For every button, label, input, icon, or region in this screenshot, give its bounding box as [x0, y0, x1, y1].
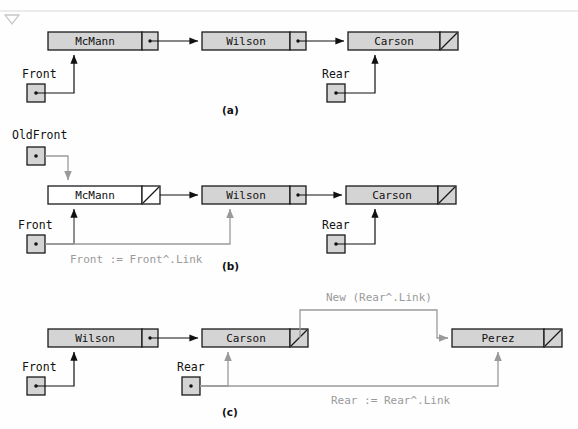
node-label: Wilson: [226, 189, 266, 202]
pointer-label-rear-a: Rear: [322, 67, 350, 81]
triangle-down-marker: [5, 15, 19, 24]
pointer-label-front-a: Front: [22, 67, 57, 81]
node-label: McMann: [75, 35, 115, 48]
pointer-label-oldfront-b: OldFront: [12, 128, 67, 142]
node-label: Wilson: [75, 332, 115, 345]
node-mcmann-a: McMann: [48, 32, 158, 50]
pointer-arrow-oldfront-b: [45, 156, 68, 180]
panel-caption-a: (a): [222, 104, 239, 116]
figure-canvas: McMann Wilson Carson Front Rear: [0, 0, 578, 429]
node-label: Perez: [481, 332, 514, 345]
node-label: Carson: [226, 332, 266, 345]
node-label: Wilson: [226, 35, 266, 48]
pointer-label-front-b: Front: [18, 218, 53, 232]
node-wilson-c: Wilson: [48, 329, 158, 347]
node-label: Carson: [372, 189, 412, 202]
node-label: Carson: [374, 35, 414, 48]
pointer-label-front-c: Front: [22, 360, 57, 374]
linked-list-queue-diagram: McMann Wilson Carson Front Rear: [0, 0, 578, 429]
node-carson-a: Carson: [348, 32, 458, 50]
pointer-arrow-rear-new-c: [200, 352, 498, 386]
annotation-new-rear-link: New (Rear^.Link): [326, 291, 432, 304]
node-mcmann-b: McMann: [48, 186, 160, 204]
link-new-node-c: [300, 310, 448, 338]
pointer-label-rear-b: Rear: [322, 218, 350, 232]
panel-b: OldFront McMann Wilson Carson: [12, 128, 456, 272]
panel-caption-c: (c): [222, 406, 238, 418]
node-label: McMann: [75, 189, 115, 202]
pointer-box-rear-c: [182, 377, 200, 395]
panel-a: McMann Wilson Carson Front Rear: [22, 32, 458, 116]
panel-caption-b: (b): [222, 260, 239, 272]
node-carson-c: Carson: [202, 329, 308, 347]
node-wilson-b: Wilson: [202, 186, 306, 204]
pointer-box-oldfront-b: [27, 147, 45, 165]
node-wilson-a: Wilson: [202, 32, 306, 50]
annotation-front-assign: Front := Front^.Link: [70, 253, 203, 266]
panel-c: New (Rear^.Link) Wilson Carson Perez Fro…: [22, 291, 562, 418]
annotation-rear-assign: Rear := Rear^.Link: [331, 394, 451, 407]
pointer-label-rear-c: Rear: [177, 360, 205, 374]
node-carson-b: Carson: [346, 186, 456, 204]
pointer-box-front-b: [27, 235, 45, 253]
node-perez-c: Perez: [452, 329, 562, 347]
pointer-arrow-front-new-b: [45, 209, 230, 244]
